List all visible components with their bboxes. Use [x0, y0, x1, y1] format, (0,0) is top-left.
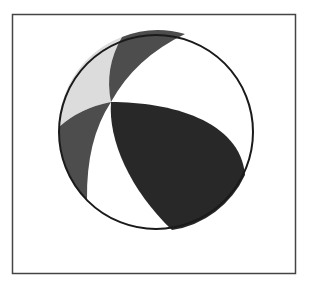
beach-ball-diagram [0, 0, 311, 282]
diagram-canvas [0, 0, 311, 282]
